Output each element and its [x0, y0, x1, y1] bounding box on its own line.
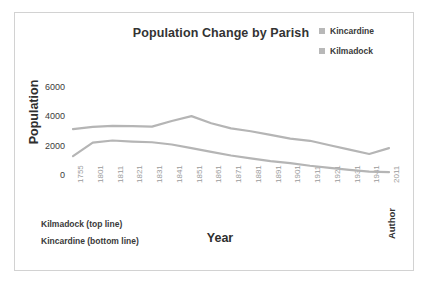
author-credit: Author — [386, 198, 397, 250]
series-line-kincardine — [73, 141, 389, 173]
chart-annotations: Kilmadock (top line) Kincardine (bottom … — [41, 219, 139, 253]
annotation-kincardine: Kincardine (bottom line) — [41, 236, 139, 246]
annotation-kilmadock: Kilmadock (top line) — [41, 219, 139, 229]
chart-plot-region: Population Change by Parish Kincardine K… — [15, 13, 413, 270]
series-line-kilmadock — [73, 116, 389, 154]
chart-container: Population Change by Parish Kincardine K… — [14, 12, 414, 271]
